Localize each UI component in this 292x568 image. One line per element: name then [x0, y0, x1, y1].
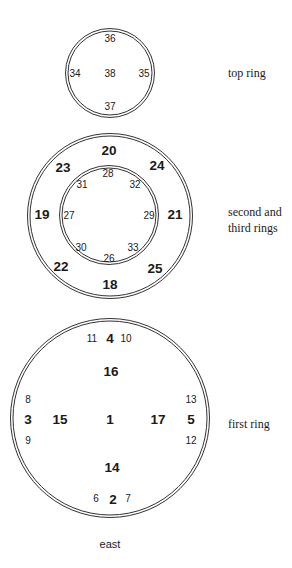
position-number-13: 13 — [185, 394, 197, 405]
position-number-1: 1 — [106, 412, 114, 427]
position-number-5: 5 — [187, 412, 195, 427]
position-number-9: 9 — [25, 435, 31, 446]
position-number-8: 8 — [25, 394, 31, 405]
ring-diagram: 3634383537 2023241921222518 283132272930… — [0, 0, 292, 568]
second-ring: 2023241921222518 — [28, 134, 193, 299]
position-number-10: 10 — [120, 333, 132, 344]
label-top-ring: top ring — [228, 66, 266, 80]
position-number-14: 14 — [104, 460, 120, 475]
position-number-6: 6 — [93, 493, 99, 504]
top-ring: 3634383537 — [66, 29, 155, 118]
position-number-4: 4 — [106, 331, 114, 346]
position-number-31: 31 — [76, 179, 88, 190]
position-number-3: 3 — [24, 412, 32, 427]
position-number-25: 25 — [147, 261, 163, 276]
second-ring-numbers: 2023241921222518 — [34, 143, 183, 292]
first-ring-numbers: 1141016831511751391214627 — [24, 331, 197, 507]
top-ring-numbers: 3634383537 — [69, 33, 150, 112]
position-number-30: 30 — [75, 242, 87, 253]
position-number-21: 21 — [167, 207, 183, 222]
label-second-rings-line2: third rings — [228, 221, 278, 235]
position-number-34: 34 — [69, 68, 81, 79]
position-number-20: 20 — [101, 143, 116, 158]
position-number-2: 2 — [109, 492, 117, 507]
position-number-7: 7 — [125, 493, 131, 504]
position-number-22: 22 — [53, 259, 68, 274]
position-number-27: 27 — [63, 210, 75, 221]
position-number-38: 38 — [104, 68, 116, 79]
position-number-26: 26 — [103, 253, 115, 264]
position-number-15: 15 — [52, 412, 68, 427]
position-number-29: 29 — [143, 210, 155, 221]
position-number-19: 19 — [34, 207, 49, 222]
position-number-16: 16 — [103, 364, 119, 379]
third-ring: 2831322729303326 — [60, 166, 159, 265]
position-number-37: 37 — [104, 101, 116, 112]
position-number-24: 24 — [149, 158, 165, 173]
position-number-18: 18 — [102, 277, 118, 292]
label-east: east — [100, 538, 121, 550]
position-number-33: 33 — [127, 242, 139, 253]
position-number-23: 23 — [55, 160, 71, 175]
position-number-28: 28 — [102, 168, 114, 179]
position-number-36: 36 — [104, 33, 116, 44]
position-number-12: 12 — [185, 435, 197, 446]
label-second-rings-line1: second and — [228, 205, 282, 219]
first-ring: 1141016831511751391214627 — [11, 319, 210, 518]
position-number-17: 17 — [150, 412, 165, 427]
position-number-32: 32 — [129, 179, 141, 190]
position-number-35: 35 — [138, 68, 150, 79]
position-number-11: 11 — [87, 333, 98, 344]
label-first-ring: first ring — [228, 417, 270, 431]
